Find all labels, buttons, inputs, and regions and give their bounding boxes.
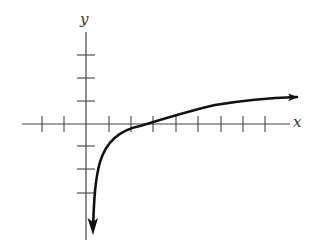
y-axis-label: y bbox=[79, 10, 89, 28]
log-graph: y x bbox=[0, 0, 325, 252]
x-axis-label: x bbox=[293, 113, 302, 131]
log-curve bbox=[93, 97, 297, 228]
